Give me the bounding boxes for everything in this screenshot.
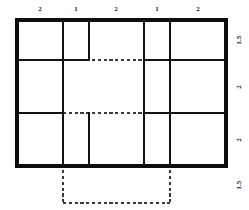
cell-faces-layer (17, 20, 226, 166)
grid-cell (89, 20, 144, 60)
grid-cell (89, 113, 144, 166)
grid-cell (17, 60, 63, 113)
grid-cell (63, 20, 89, 60)
grid-cell (170, 20, 226, 60)
grid-cell (63, 113, 89, 166)
grid-cell (144, 113, 170, 166)
grid-cell (144, 20, 170, 60)
floor-plan-drawing (0, 0, 249, 210)
grid-cell (17, 113, 63, 166)
dimensioned-grid-figure: 2 1 2 1 2 1.5 2 2 1.5 (0, 0, 249, 210)
grid-cell (170, 60, 226, 113)
grid-cell (170, 113, 226, 166)
grid-cell (89, 60, 144, 113)
grid-cell (63, 60, 89, 113)
grid-cell (17, 20, 63, 60)
grid-cell (144, 60, 170, 113)
